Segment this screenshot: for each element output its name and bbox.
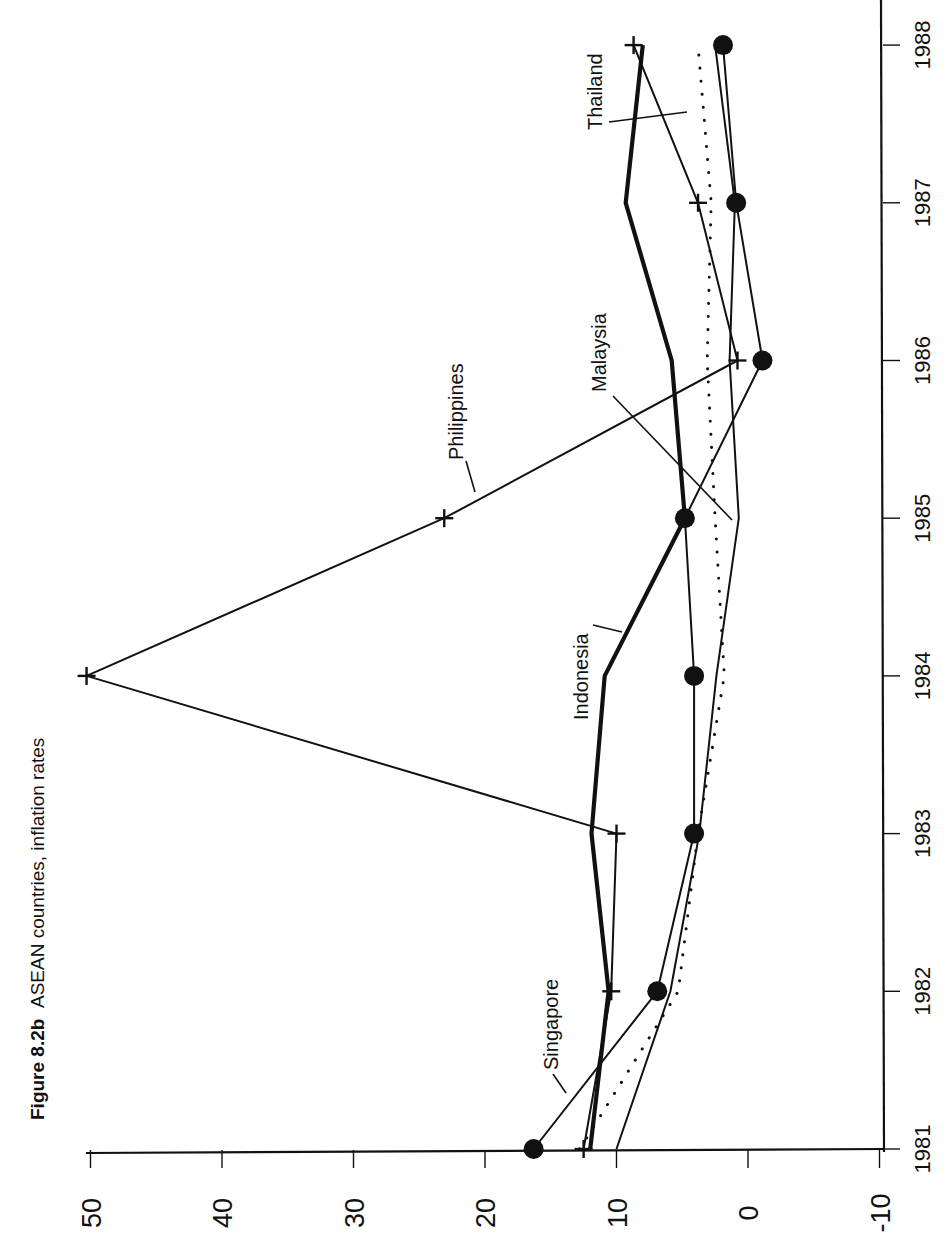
svg-text:Indonesia: Indonesia — [570, 632, 592, 720]
inflation-chart: Figure 8.2b ASEAN countries, inflation r… — [0, 0, 947, 1239]
data-point-philippines — [602, 982, 620, 1000]
data-point-singapore — [675, 508, 695, 528]
year-tick-label: 1981 — [910, 1125, 935, 1174]
year-tick-label: 1984 — [910, 651, 935, 700]
data-point-singapore — [713, 35, 733, 55]
year-tick-label: 1987 — [910, 178, 935, 227]
year-tick-label: 1986 — [910, 336, 935, 385]
svg-text:Thailand: Thailand — [584, 53, 606, 130]
data-point-philippines — [728, 352, 746, 370]
value-tick-label: 40 — [208, 1198, 238, 1228]
figure-title: Figure 8.2b ASEAN countries, inflation r… — [27, 738, 48, 1120]
data-point-singapore — [524, 1139, 544, 1159]
value-tick-label: 10 — [603, 1198, 633, 1228]
series-line-philippines — [87, 45, 738, 1149]
series-markers — [78, 35, 773, 1159]
data-point-philippines — [435, 509, 453, 527]
year-tick-label: 1985 — [910, 494, 935, 543]
data-point-singapore — [684, 666, 704, 686]
year-axis-ticks: 19811982198319841985198619871988 — [883, 21, 935, 1174]
value-tick-label: 0 — [734, 1205, 764, 1220]
series-line-indonesia — [590, 45, 685, 1149]
figure-title-text: ASEAN countries, inflation rates — [27, 738, 48, 1008]
label-indonesia: Indonesia — [570, 625, 622, 720]
year-axis-line — [881, 0, 884, 1152]
year-tick-label: 1983 — [910, 809, 935, 858]
figure-number: Figure 8.2b — [27, 1019, 48, 1120]
data-point-philippines — [625, 36, 643, 54]
label-malaysia: Malaysia — [588, 312, 732, 520]
svg-text:Malaysia: Malaysia — [588, 312, 610, 392]
data-point-philippines — [689, 194, 707, 212]
svg-text:Philippines: Philippines — [445, 363, 467, 460]
label-philippines: Philippines — [445, 363, 475, 492]
data-point-singapore — [752, 351, 772, 371]
data-point-singapore — [726, 193, 746, 213]
value-tick-label: 50 — [77, 1198, 107, 1228]
value-axis-ticks: 50403020100-10 — [77, 1150, 896, 1233]
value-tick-label: 30 — [340, 1198, 370, 1228]
svg-text:Singapore: Singapore — [540, 979, 562, 1070]
label-singapore: Singapore — [540, 979, 566, 1093]
data-point-philippines — [78, 667, 96, 685]
data-point-singapore — [684, 824, 704, 844]
label-thailand: Thailand — [584, 53, 687, 130]
year-tick-label: 1982 — [910, 967, 935, 1016]
data-point-singapore — [647, 981, 667, 1001]
value-tick-label: 20 — [471, 1198, 501, 1228]
data-point-philippines — [608, 825, 626, 843]
series-line-malaysia — [617, 45, 739, 1149]
year-tick-label: 1988 — [910, 21, 935, 70]
value-tick-label: -10 — [866, 1193, 896, 1232]
